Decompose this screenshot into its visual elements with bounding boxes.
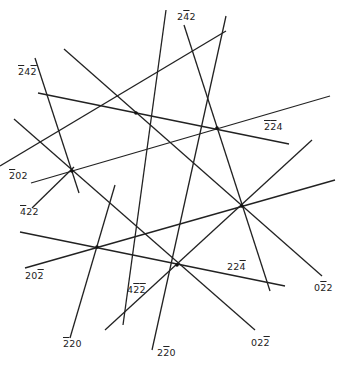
kikuchi-line [70, 185, 115, 338]
index-digit: 0 [76, 338, 82, 349]
zone-axis-node [175, 263, 179, 267]
miller-index-label: 220 [63, 339, 82, 349]
kikuchi-diagram [0, 0, 346, 368]
index-digit: 0 [170, 347, 176, 358]
kikuchi-line [32, 167, 74, 208]
zone-axis-node [215, 126, 219, 130]
index-digit: 2 [190, 11, 196, 22]
zone-axis-node [134, 111, 138, 115]
kikuchi-line [105, 140, 312, 330]
index-digit-negative: 4 [240, 261, 246, 272]
kikuchi-line [123, 10, 166, 325]
index-digit-negative: 2 [264, 337, 270, 348]
zone-axis-node [95, 245, 99, 249]
kikuchi-line [25, 180, 335, 268]
miller-index-label: 202 [9, 171, 28, 181]
zone-axis-node [70, 169, 74, 173]
miller-index-label: 422 [127, 285, 146, 295]
kikuchi-lines [0, 10, 335, 350]
index-digit: 2 [327, 282, 333, 293]
index-digit-negative: 2 [31, 66, 37, 77]
miller-index-label: 224 [264, 122, 283, 132]
miller-index-label: 220 [157, 348, 176, 358]
kikuchi-line [152, 16, 226, 350]
index-digit: 2 [22, 170, 28, 181]
kikuchi-line [184, 25, 270, 291]
zone-axis-node [240, 204, 244, 208]
miller-index-label: 422 [20, 207, 39, 217]
miller-index-label: 022 [251, 338, 270, 348]
miller-index-label: 202 [25, 271, 44, 281]
index-digit-negative: 2 [38, 270, 44, 281]
miller-index-label: 242 [177, 12, 196, 22]
kikuchi-line [31, 96, 330, 183]
miller-index-label: 224 [227, 262, 246, 272]
index-digit: 4 [277, 121, 283, 132]
kikuchi-line [14, 119, 255, 330]
index-digit: 2 [33, 206, 39, 217]
miller-index-label: 242 [18, 67, 37, 77]
index-digit-negative: 2 [140, 284, 146, 295]
miller-index-label: 022 [314, 283, 333, 293]
